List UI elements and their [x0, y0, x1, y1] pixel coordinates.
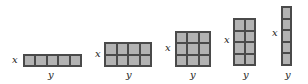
unit-square	[105, 55, 117, 67]
y-dimension-label: y	[285, 70, 291, 80]
unit-square	[199, 55, 210, 66]
unit-square	[176, 32, 187, 43]
x-dimension-label: x	[12, 55, 18, 65]
y-dimension-label: y	[48, 70, 54, 80]
unit-square	[282, 53, 291, 65]
unit-square	[128, 43, 140, 55]
unit-square	[187, 32, 198, 43]
unit-square	[245, 19, 256, 31]
unit-square	[187, 55, 198, 66]
unit-square	[140, 43, 152, 55]
unit-square	[245, 31, 256, 43]
y-dimension-label: y	[126, 70, 132, 80]
grid-rectangle-2x4	[233, 18, 256, 66]
unit-square	[187, 43, 198, 54]
grid-rectangle-3x3	[175, 31, 211, 67]
y-dimension-label: y	[190, 70, 196, 80]
unit-square	[128, 55, 140, 67]
unit-square	[245, 42, 256, 54]
unit-square	[47, 55, 58, 66]
y-dimension-label: y	[243, 70, 249, 80]
unit-square	[199, 32, 210, 43]
unit-square	[199, 43, 210, 54]
unit-square	[282, 30, 291, 42]
unit-square	[234, 19, 245, 31]
unit-square	[140, 55, 152, 67]
unit-square	[282, 7, 291, 19]
unit-square	[282, 42, 291, 54]
unit-square	[70, 55, 81, 66]
unit-square	[58, 55, 69, 66]
unit-square	[117, 43, 129, 55]
unit-square	[234, 54, 245, 66]
unit-square	[117, 55, 129, 67]
grid-rectangle-1x5	[281, 6, 292, 66]
unit-square	[105, 43, 117, 55]
grid-rectangle-4x2	[104, 42, 152, 67]
x-dimension-label: x	[272, 28, 278, 38]
x-dimension-label: x	[165, 43, 171, 53]
unit-square	[245, 54, 256, 66]
unit-square	[282, 19, 291, 31]
x-dimension-label: x	[224, 35, 230, 45]
unit-square	[35, 55, 46, 66]
x-dimension-label: x	[95, 49, 101, 59]
unit-square	[234, 31, 245, 43]
unit-square	[176, 55, 187, 66]
unit-square	[176, 43, 187, 54]
unit-square	[24, 55, 35, 66]
unit-square	[234, 42, 245, 54]
grid-rectangle-5x1	[23, 54, 82, 67]
